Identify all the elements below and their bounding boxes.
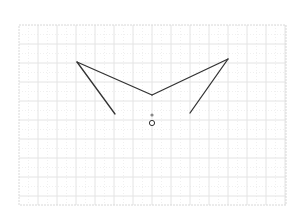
center-dot-marker[interactable] xyxy=(150,113,153,116)
diagram-canvas xyxy=(0,0,302,220)
pivot-ring-marker[interactable] xyxy=(149,120,154,125)
